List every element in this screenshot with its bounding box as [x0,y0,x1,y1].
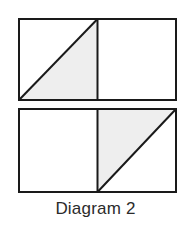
diagram-figure: Diagram 2 [0,0,191,228]
bottom-rectangle-group [19,109,176,192]
diagram-caption: Diagram 2 [0,198,191,220]
diagram-canvas [0,0,191,228]
top-rectangle-group [19,19,176,100]
